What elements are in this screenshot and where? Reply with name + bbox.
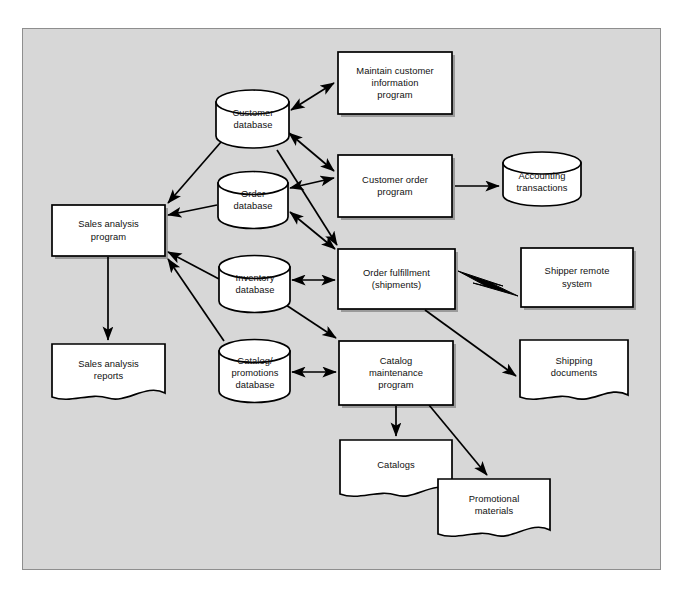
connector-inventory-db-to-catalog-maintenance: [283, 303, 336, 338]
node-sales-analysis-reports[interactable]: [52, 344, 165, 399]
node-order-database[interactable]: [218, 172, 288, 229]
shape-layer: [52, 52, 633, 536]
connector-customer-db-to-maintain-program: [291, 83, 334, 110]
connector-customer-db-to-customer-order-program: [289, 133, 334, 171]
connector-order-fulfillment-to-shipper-remote-lightning: [458, 271, 518, 296]
node-accounting-transactions[interactable]: [503, 152, 581, 206]
node-catalog-maintenance-program[interactable]: [339, 341, 453, 405]
connector-catalog-db-to-sales-analysis: [168, 259, 224, 341]
connector-customer-db-to-sales-analysis: [168, 142, 221, 203]
connector-order-db-to-sales-analysis: [168, 205, 217, 215]
node-sales-analysis-program[interactable]: [52, 205, 165, 256]
node-inventory-database[interactable]: [219, 256, 290, 313]
node-order-fulfillment-shipments[interactable]: [338, 249, 455, 309]
node-catalogs[interactable]: [340, 440, 452, 496]
node-shipping-documents[interactable]: [520, 340, 628, 399]
node-promotional-materials[interactable]: [438, 479, 550, 536]
node-customer-database[interactable]: [216, 90, 289, 148]
node-catalog-promotions-database[interactable]: [219, 340, 290, 403]
node-shipper-remote-system[interactable]: [521, 248, 633, 307]
node-maintain-customer-information-program[interactable]: [338, 52, 452, 114]
connector-inventory-db-to-sales-analysis: [168, 252, 219, 279]
node-customer-order-program[interactable]: [338, 155, 452, 217]
diagram-canvas: [0, 0, 681, 595]
